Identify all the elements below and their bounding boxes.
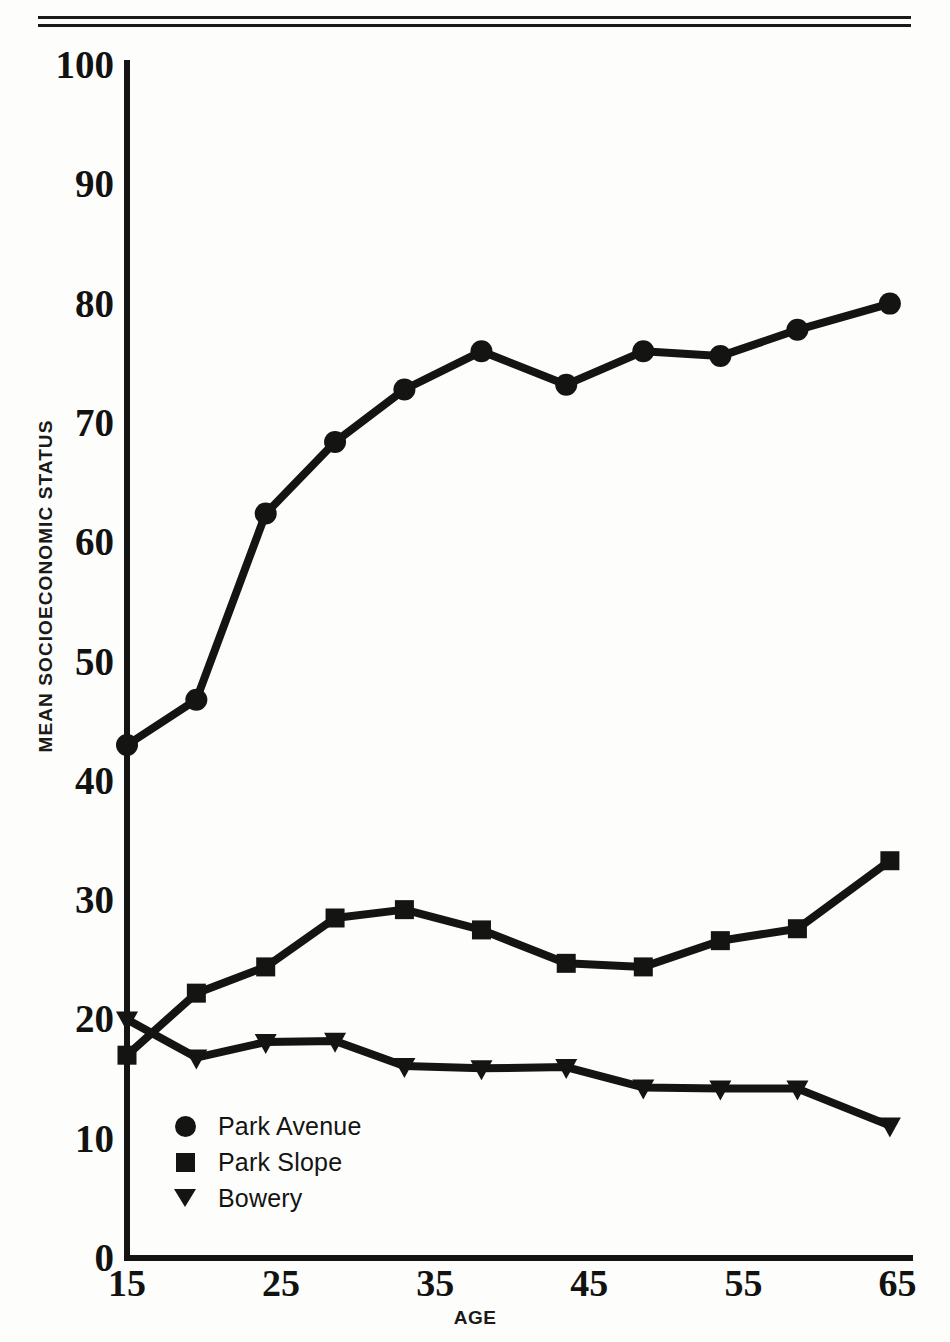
series-park-slope bbox=[118, 851, 900, 1064]
data-point bbox=[187, 984, 206, 1003]
data-point bbox=[555, 374, 577, 396]
legend-item-park-avenue: Park Avenue bbox=[168, 1108, 362, 1144]
series-line bbox=[127, 304, 890, 745]
x-tick-label: 55 bbox=[698, 1264, 788, 1302]
legend-item-park-slope: Park Slope bbox=[168, 1144, 362, 1180]
data-point bbox=[786, 319, 808, 341]
data-point bbox=[879, 293, 901, 315]
legend-item-bowery: Bowery bbox=[168, 1180, 362, 1216]
data-point bbox=[255, 503, 277, 525]
data-point bbox=[788, 919, 807, 938]
data-point bbox=[393, 378, 415, 400]
chart-figure: MEAN SOCIOECONOMIC STATUS AGE 0102030405… bbox=[0, 0, 950, 1342]
y-tick-label: 20 bbox=[18, 999, 114, 1038]
y-tick-label: 60 bbox=[18, 522, 114, 561]
legend-label: Park Slope bbox=[218, 1148, 342, 1177]
data-point bbox=[116, 734, 138, 756]
data-point bbox=[711, 931, 730, 950]
y-tick-label: 90 bbox=[18, 164, 114, 203]
x-tick-label: 35 bbox=[390, 1264, 480, 1302]
data-point bbox=[118, 1046, 137, 1065]
series-line bbox=[127, 861, 890, 1055]
y-tick-label: 80 bbox=[18, 284, 114, 323]
series-park-avenue bbox=[116, 293, 901, 756]
circle-marker-icon bbox=[168, 1116, 202, 1137]
data-point bbox=[470, 340, 492, 362]
data-point bbox=[634, 957, 653, 976]
data-point bbox=[185, 689, 207, 711]
x-tick-label: 65 bbox=[853, 1264, 943, 1302]
data-point bbox=[324, 431, 346, 453]
x-tick-label: 15 bbox=[82, 1264, 172, 1302]
data-point bbox=[632, 340, 654, 362]
data-point bbox=[557, 954, 576, 973]
triangle-down-marker-icon bbox=[168, 1189, 202, 1207]
data-point bbox=[709, 345, 731, 367]
data-point bbox=[879, 1118, 901, 1138]
y-tick-label: 40 bbox=[18, 761, 114, 800]
legend-label: Park Avenue bbox=[218, 1112, 362, 1141]
data-point bbox=[326, 908, 345, 927]
square-marker-icon bbox=[168, 1153, 202, 1172]
chart-legend: Park Avenue Park Slope Bowery bbox=[168, 1108, 362, 1216]
series-layer bbox=[116, 293, 901, 1138]
y-tick-label: 10 bbox=[18, 1119, 114, 1158]
y-tick-label: 30 bbox=[18, 880, 114, 919]
x-tick-label: 45 bbox=[544, 1264, 634, 1302]
y-tick-label: 100 bbox=[18, 45, 114, 84]
data-point bbox=[256, 957, 275, 976]
plot-area bbox=[0, 0, 950, 1342]
y-tick-label: 50 bbox=[18, 642, 114, 681]
y-tick-label: 70 bbox=[18, 403, 114, 442]
data-point bbox=[395, 900, 414, 919]
axis-lines bbox=[124, 60, 913, 1259]
legend-label: Bowery bbox=[218, 1184, 303, 1213]
data-point bbox=[472, 920, 491, 939]
data-point bbox=[880, 851, 899, 870]
x-tick-label: 25 bbox=[236, 1264, 326, 1302]
